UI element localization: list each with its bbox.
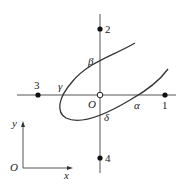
contour-diagram: 2 3 1 4 O β γ α δ y O x	[0, 0, 187, 189]
beta-label: β	[88, 56, 93, 67]
point-3	[35, 92, 40, 97]
alpha-label: α	[134, 100, 140, 111]
point-4-label: 4	[105, 153, 111, 164]
point-1-label: 1	[162, 100, 168, 111]
delta-label: δ	[104, 112, 109, 123]
point-3-label: 3	[34, 80, 40, 91]
diagram-canvas	[0, 0, 187, 189]
contour-curve	[60, 43, 168, 120]
inset-x-label: x	[64, 170, 69, 181]
inset-y-arrow-icon	[21, 121, 25, 127]
gamma-label: γ	[58, 81, 62, 92]
origin-point	[97, 92, 103, 98]
point-1	[162, 92, 167, 97]
point-2	[97, 26, 102, 31]
inset-y-label: y	[12, 118, 17, 129]
inset-origin-label: O	[10, 162, 18, 173]
point-4	[97, 155, 102, 160]
point-2-label: 2	[105, 24, 111, 35]
origin-label: O	[88, 99, 96, 110]
